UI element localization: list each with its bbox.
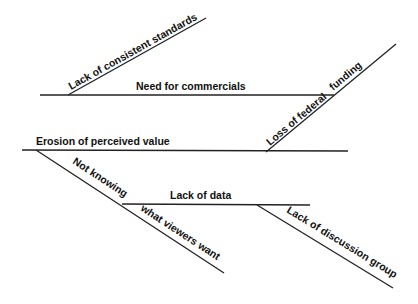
label-federal-1: Loss of federal xyxy=(264,90,329,147)
fishbone-diagram: Lack of consistent standards Need for co… xyxy=(0,0,418,304)
label-discussion: Lack of discussion group xyxy=(285,203,400,280)
label-not-knowing-2: what viewers want xyxy=(138,201,223,262)
label-commercials: Need for commercials xyxy=(136,80,246,92)
branch-erosion xyxy=(22,150,348,151)
label-lack-of-data: Lack of data xyxy=(170,189,231,201)
label-erosion: Erosion of perceived value xyxy=(36,135,170,147)
branch-not-knowing xyxy=(36,150,224,273)
branch-federal-funding xyxy=(266,44,396,152)
branch-discussion xyxy=(257,205,393,288)
